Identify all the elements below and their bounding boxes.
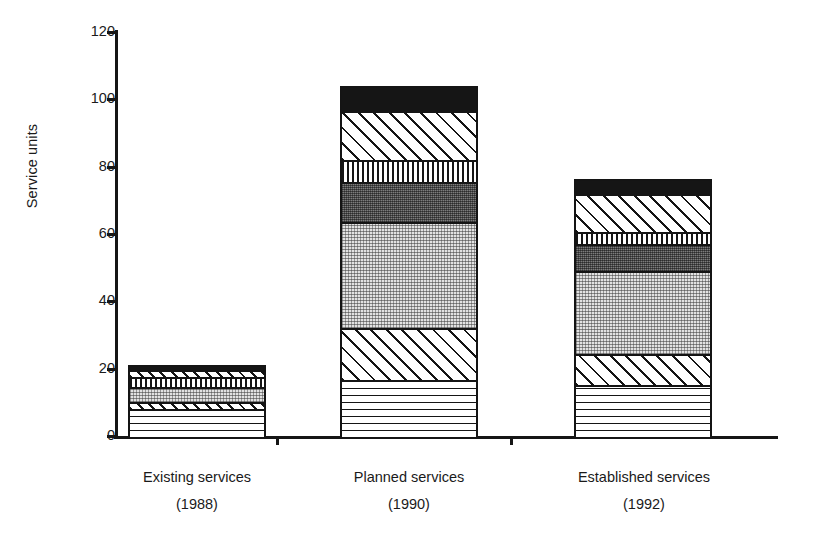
bar-segment-3-light-stipple bbox=[130, 389, 264, 404]
category-year: (1990) bbox=[329, 491, 489, 518]
bar-segment-6-diagonal-hatch bbox=[576, 196, 710, 235]
y-tick-label: 80 bbox=[71, 159, 115, 173]
category-name: Existing services bbox=[117, 464, 277, 491]
y-tick-label: 20 bbox=[71, 361, 115, 375]
bar-segment-6-diagonal-hatch bbox=[342, 113, 476, 162]
bar-established-services[interactable] bbox=[574, 179, 712, 437]
bar-segment-2-diagonal-hatch bbox=[342, 330, 476, 382]
y-tick-label: 100 bbox=[71, 91, 115, 105]
bar-segment-2-diagonal-hatch bbox=[576, 356, 710, 388]
bar-segment-1-horizontal-lines bbox=[576, 387, 710, 438]
category-year: (1992) bbox=[558, 491, 730, 518]
bar-planned-services[interactable] bbox=[340, 86, 478, 436]
stacked-bar-chart: Service units 120 100 80 60 40 20 bbox=[0, 0, 823, 549]
bar-segment-3-light-stipple bbox=[342, 224, 476, 330]
y-tick-label: 40 bbox=[71, 293, 115, 307]
bar-segment-5-vertical-grid bbox=[342, 162, 476, 184]
y-tick-label: 120 bbox=[71, 24, 115, 38]
bar-segment-1-horizontal-lines bbox=[130, 411, 264, 438]
category-name: Planned services bbox=[329, 464, 489, 491]
bar-segment-7-solid-black bbox=[342, 88, 476, 113]
x-tick-2 bbox=[510, 436, 513, 445]
category-label-planned-services: Planned services (1990) bbox=[329, 464, 489, 518]
bar-existing-services[interactable] bbox=[128, 365, 266, 436]
bar-segment-4-dark-gray bbox=[576, 246, 710, 273]
bar-segment-2-diagonal-hatch bbox=[130, 404, 264, 411]
x-tick-1 bbox=[276, 436, 279, 445]
y-tick-label: 0 bbox=[71, 428, 115, 442]
bar-segment-3-light-stipple bbox=[576, 273, 710, 355]
bar-segment-6-diagonal-hatch bbox=[130, 372, 264, 379]
bar-segment-5-vertical-grid bbox=[576, 234, 710, 246]
plot-area: 120 100 80 60 40 20 0 bbox=[0, 0, 823, 549]
category-label-existing-services: Existing services (1988) bbox=[117, 464, 277, 518]
bar-segment-4-dark-gray bbox=[342, 184, 476, 224]
bar-segment-1-horizontal-lines bbox=[342, 382, 476, 438]
category-label-established-services: Established services (1992) bbox=[558, 464, 730, 518]
category-year: (1988) bbox=[117, 491, 277, 518]
bar-segment-5-vertical-grid bbox=[130, 379, 264, 389]
y-tick-label: 60 bbox=[71, 226, 115, 240]
category-name: Established services bbox=[558, 464, 730, 491]
bar-segment-7-solid-black bbox=[576, 181, 710, 196]
